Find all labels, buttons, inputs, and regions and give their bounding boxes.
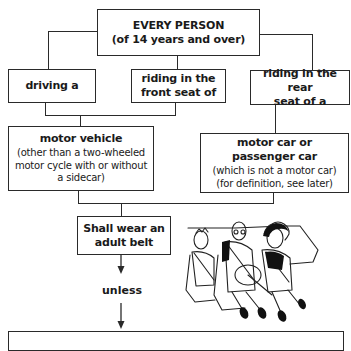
- people-in-car-wearing-seatbelts-illustration: [0, 0, 351, 338]
